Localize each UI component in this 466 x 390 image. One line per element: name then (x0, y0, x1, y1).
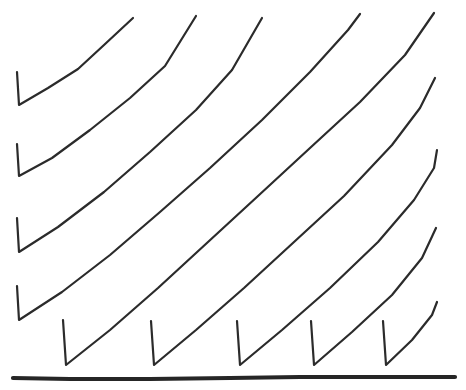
figure-canvas (0, 0, 466, 390)
baseline-axis-line (13, 377, 455, 379)
sawtooth-ramp-drawing (0, 0, 466, 390)
drawing-background (0, 0, 466, 390)
